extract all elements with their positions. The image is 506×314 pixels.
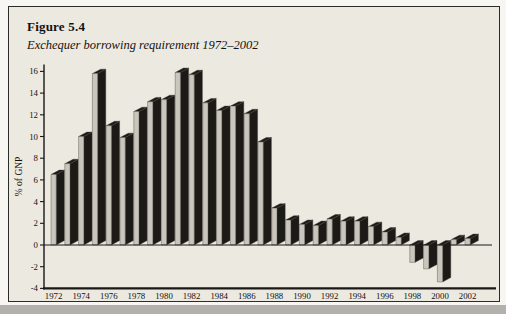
x-tick-label: 2000 bbox=[431, 291, 449, 301]
bar-1973 bbox=[65, 159, 78, 245]
bar-2000 bbox=[437, 241, 450, 282]
bar-1981 bbox=[175, 68, 188, 245]
bar-front-face bbox=[299, 224, 304, 245]
bar-1995 bbox=[368, 222, 381, 245]
x-tick-label: 1972 bbox=[45, 291, 63, 301]
bar-front-face bbox=[134, 112, 139, 245]
bar-side-face bbox=[70, 159, 78, 245]
bar-1986 bbox=[244, 109, 257, 245]
bar-1989 bbox=[286, 216, 299, 245]
bar-1977 bbox=[120, 133, 133, 245]
y-tick-label: 16 bbox=[29, 66, 38, 76]
bar-1980 bbox=[161, 95, 174, 245]
bar-side-face bbox=[208, 98, 216, 245]
y-tick-label: 14 bbox=[29, 88, 38, 98]
y-tick-label: -2 bbox=[31, 262, 38, 272]
x-tick-label: 1974 bbox=[72, 291, 90, 301]
x-tick-label: 1994 bbox=[348, 291, 366, 301]
bar-side-face bbox=[180, 68, 188, 245]
bar-front-face bbox=[313, 225, 318, 245]
x-tick-label: 1978 bbox=[128, 291, 146, 301]
bar-front-face bbox=[355, 221, 360, 245]
bar-side-face bbox=[222, 106, 230, 245]
y-tick-label: 6 bbox=[34, 175, 39, 185]
x-tick-label: 1976 bbox=[100, 291, 118, 301]
y-axis-title: % of GNP bbox=[14, 157, 24, 197]
bar-front-face bbox=[382, 232, 387, 245]
bar-front-face bbox=[396, 237, 401, 245]
y-tick-label: 4 bbox=[34, 197, 39, 207]
bar-front-face bbox=[286, 220, 291, 245]
bar-side-face bbox=[153, 97, 161, 245]
bar-chart: -4-2024681012141619721974197619781980198… bbox=[0, 0, 506, 314]
x-tick-label: 1990 bbox=[293, 291, 311, 301]
bar-side-face bbox=[84, 132, 92, 245]
bar-1972 bbox=[51, 170, 64, 245]
bar-1994 bbox=[355, 217, 368, 245]
bar-front-face bbox=[258, 142, 263, 245]
bar-1987 bbox=[258, 138, 271, 245]
bar-front-face bbox=[217, 110, 222, 245]
bar-2001 bbox=[451, 235, 464, 245]
bar-side-face bbox=[249, 109, 257, 245]
bar-front-face bbox=[120, 138, 125, 245]
bar-front-face bbox=[410, 245, 415, 262]
bar-1988 bbox=[272, 204, 285, 245]
bar-front-face bbox=[148, 102, 153, 245]
x-tick-label: 1980 bbox=[155, 291, 173, 301]
bar-side-face bbox=[360, 217, 368, 245]
bar-1985 bbox=[230, 102, 243, 245]
page: { "figure": { "number": "Figure 5.4", "c… bbox=[0, 0, 506, 314]
bar-1992 bbox=[327, 215, 340, 245]
bar-front-face bbox=[92, 74, 97, 245]
bar-front-face bbox=[79, 137, 84, 246]
bar-side-face bbox=[236, 102, 244, 245]
bar-side-face bbox=[346, 217, 354, 245]
bar-front-face bbox=[106, 126, 111, 245]
bar-1979 bbox=[148, 97, 161, 245]
bar-front-face bbox=[437, 245, 442, 282]
bar-side-face bbox=[98, 69, 106, 245]
bar-2002 bbox=[465, 234, 478, 245]
bar-front-face bbox=[65, 164, 70, 245]
bar-1975 bbox=[92, 69, 105, 245]
bar-side-face bbox=[167, 95, 175, 245]
bar-1982 bbox=[189, 70, 202, 245]
bar-1993 bbox=[341, 217, 354, 245]
bar-side-face bbox=[443, 241, 451, 282]
x-tick-label: 1998 bbox=[404, 291, 422, 301]
bar-1984 bbox=[217, 106, 230, 245]
y-tick-label: 0 bbox=[34, 240, 39, 250]
bar-1991 bbox=[313, 221, 326, 245]
bar-side-face bbox=[139, 107, 147, 245]
x-tick-label: 1986 bbox=[238, 291, 256, 301]
bar-1990 bbox=[299, 220, 312, 245]
x-tick-label: 1984 bbox=[210, 291, 228, 301]
bar-front-face bbox=[341, 221, 346, 245]
bar-side-face bbox=[263, 138, 271, 245]
bar-front-face bbox=[451, 240, 456, 245]
bar-1983 bbox=[203, 98, 216, 245]
bar-1996 bbox=[382, 228, 395, 245]
bar-front-face bbox=[175, 72, 180, 245]
x-tick-label: 1988 bbox=[266, 291, 284, 301]
y-tick-label: -4 bbox=[31, 283, 39, 293]
bar-side-face bbox=[332, 215, 340, 245]
bar-side-face bbox=[194, 70, 202, 245]
bar-side-face bbox=[291, 216, 299, 245]
bar-front-face bbox=[203, 103, 208, 245]
bar-side-face bbox=[277, 204, 285, 245]
bar-front-face bbox=[272, 208, 277, 245]
bar-front-face bbox=[424, 245, 429, 269]
x-tick-label: 1982 bbox=[183, 291, 201, 301]
bar-front-face bbox=[51, 174, 56, 245]
bar-1997 bbox=[396, 233, 409, 245]
bar-front-face bbox=[368, 227, 373, 245]
bar-front-face bbox=[230, 106, 235, 245]
x-tick-label: 2002 bbox=[459, 291, 477, 301]
bar-1976 bbox=[106, 121, 119, 245]
bar-side-face bbox=[56, 170, 64, 245]
bar-side-face bbox=[125, 133, 133, 245]
bar-1974 bbox=[79, 132, 92, 245]
bar-side-face bbox=[111, 121, 119, 245]
